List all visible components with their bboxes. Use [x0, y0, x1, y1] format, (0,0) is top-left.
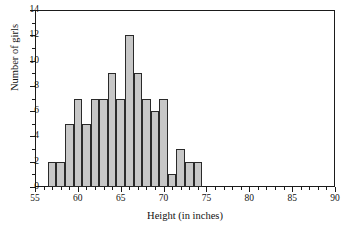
x-axis-minor-tick: [155, 187, 156, 190]
x-axis-minor-tick: [181, 187, 182, 190]
x-axis-minor-tick: [112, 187, 113, 190]
x-axis-tick-label: 55: [22, 193, 48, 203]
x-axis-minor-tick: [241, 187, 242, 190]
x-axis-minor-tick: [86, 187, 87, 190]
x-axis-tick: [335, 187, 336, 192]
x-axis-minor-tick: [266, 187, 267, 190]
x-axis-minor-tick: [275, 187, 276, 190]
histogram-figure: 024681012145560657075808590 Number of gi…: [0, 0, 351, 235]
x-axis-tick: [164, 187, 165, 192]
x-axis-tick-label: 85: [279, 193, 305, 203]
x-axis-minor-tick: [172, 187, 173, 190]
x-axis-minor-tick: [104, 187, 105, 190]
x-axis-tick: [78, 187, 79, 192]
y-axis-minor-tick: [32, 99, 35, 100]
x-axis-tick: [121, 187, 122, 192]
x-axis-tick-label: 60: [65, 193, 91, 203]
y-axis-minor-tick: [32, 174, 35, 175]
x-axis-minor-tick: [44, 187, 45, 190]
x-axis-tick: [35, 187, 36, 192]
x-axis-minor-tick: [258, 187, 259, 190]
x-axis-minor-tick: [189, 187, 190, 190]
x-axis-title: Height (in inches): [35, 210, 335, 221]
y-axis-minor-tick: [32, 48, 35, 49]
x-axis-minor-tick: [52, 187, 53, 190]
x-axis-minor-tick: [69, 187, 70, 190]
axes-decorations: 024681012145560657075808590: [0, 0, 351, 235]
y-axis-minor-tick: [32, 124, 35, 125]
x-axis-minor-tick: [138, 187, 139, 190]
x-axis-minor-tick: [61, 187, 62, 190]
y-axis-tick-label: 10: [17, 56, 39, 66]
x-axis-tick-label: 75: [193, 193, 219, 203]
x-axis-tick: [249, 187, 250, 192]
y-axis-tick-label: 8: [17, 81, 39, 91]
x-axis-tick-label: 65: [108, 193, 134, 203]
x-axis-tick-label: 70: [151, 193, 177, 203]
x-axis-minor-tick: [318, 187, 319, 190]
x-axis-minor-tick: [309, 187, 310, 190]
x-axis-minor-tick: [129, 187, 130, 190]
y-axis-tick-label: 6: [17, 106, 39, 116]
y-axis-tick-label: 4: [17, 131, 39, 141]
y-axis-tick-label: 14: [17, 5, 39, 15]
x-axis-minor-tick: [301, 187, 302, 190]
y-axis-minor-tick: [32, 23, 35, 24]
y-axis-tick-label: 12: [17, 30, 39, 40]
x-axis-minor-tick: [284, 187, 285, 190]
x-axis-minor-tick: [232, 187, 233, 190]
x-axis-minor-tick: [95, 187, 96, 190]
x-axis-minor-tick: [146, 187, 147, 190]
x-axis-tick-label: 90: [322, 193, 348, 203]
x-axis-minor-tick: [215, 187, 216, 190]
y-axis-minor-tick: [32, 73, 35, 74]
y-axis-title: Number of girls: [9, 0, 20, 128]
y-axis-minor-tick: [32, 149, 35, 150]
x-axis-tick: [206, 187, 207, 192]
y-axis-tick-label: 2: [17, 157, 39, 167]
x-axis-minor-tick: [326, 187, 327, 190]
x-axis-tick: [292, 187, 293, 192]
x-axis-minor-tick: [198, 187, 199, 190]
x-axis-tick-label: 80: [236, 193, 262, 203]
x-axis-minor-tick: [224, 187, 225, 190]
